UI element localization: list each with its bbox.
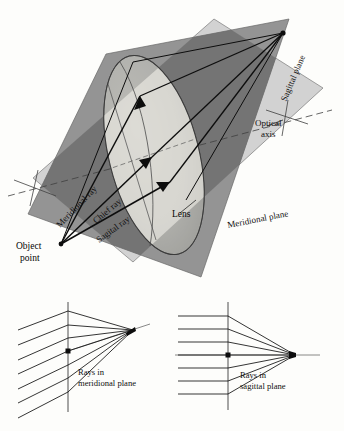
lens-label: Lens [172, 209, 191, 219]
object-point-label-line1: Object [16, 241, 42, 251]
meridional-plane-label: Meridional plane [226, 208, 289, 230]
object-point-label-line2: point [20, 253, 40, 263]
figure-canvas: Object point Meridional ray Chief ray Sa… [0, 0, 344, 431]
optical-axis-label-line1: Optical [255, 118, 282, 128]
main-diagram: Object point Meridional ray Chief ray Sa… [8, 19, 332, 277]
sagittal-axis-dot [226, 353, 231, 358]
meridional-incoming-ray [18, 351, 68, 374]
meridional-incoming-ray [18, 378, 68, 403]
optics-figure-svg: Object point Meridional ray Chief ray Sa… [0, 0, 344, 431]
meridional-incoming-ray [18, 311, 68, 330]
sagittal-caption-line1: Rays in [240, 370, 267, 380]
sagittal-outgoing-ray [228, 355, 295, 368]
meridional-caption-line2: meridional plane [78, 378, 136, 388]
meridional-incoming-ray [18, 392, 68, 418]
rays-in-meridional-plane-diagram: Rays in meridional plane [18, 302, 150, 418]
sagittal-caption-line2: sagittal plane [240, 381, 286, 391]
meridional-axis-dot [66, 349, 71, 354]
rays-in-sagittal-plane-diagram: Rays in sagittal plane [175, 302, 320, 410]
meridional-incoming-ray [18, 338, 68, 360]
sagittal-outgoing-ray [228, 329, 295, 355]
object-point-dot [59, 242, 64, 247]
sagittal-outgoing-ray [228, 342, 295, 355]
meridional-incoming-ray [18, 365, 68, 389]
meridional-incoming-ray [18, 325, 68, 345]
sagittal-outgoing-ray [228, 316, 295, 355]
image-point-dot [280, 30, 285, 35]
optical-axis-label-line2: axis [261, 129, 276, 139]
sagittal-focus-marker [289, 351, 296, 359]
meridional-caption-line1: Rays in [78, 367, 105, 377]
